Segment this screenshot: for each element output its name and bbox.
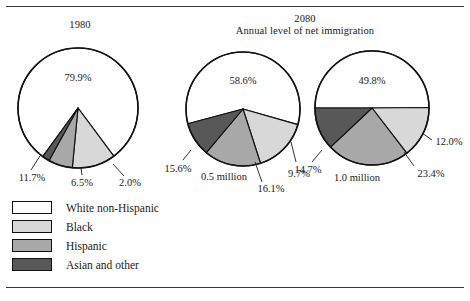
- pie-3-leader-hispanic: [404, 152, 414, 166]
- pie-3-label-asian: 12.0%: [435, 136, 462, 147]
- pie-1-label-asian: 2.0%: [119, 177, 141, 188]
- pie-3-label-hispanic: 23.4%: [417, 168, 444, 179]
- pie-2-leader-asian: [291, 142, 296, 162]
- legend-label-black: Black: [66, 221, 93, 233]
- pie-2-label-hispanic: 16.1%: [257, 183, 284, 194]
- pie-1-label-hispanic: 6.5%: [71, 177, 93, 188]
- legend-item-white-non-hispanic: White non-Hispanic: [12, 198, 159, 217]
- pie-1-label-black: 11.7%: [19, 172, 46, 183]
- pie-chart-2080-half-million: 58.6% 15.6% 16.1% 9.7% 0.5 million: [164, 52, 310, 194]
- pie-2-caption: 0.5 million: [201, 171, 248, 182]
- legend-item-asian-and-other: Asian and other: [12, 255, 159, 274]
- pie-3-label-black: 14.7%: [294, 164, 321, 175]
- legend-swatch-asian-and-other: [12, 258, 52, 271]
- pie-1-leader-black: [31, 156, 40, 170]
- legend-swatch-white-non-hispanic: [12, 201, 52, 214]
- pie-2-leader-black: [183, 150, 191, 160]
- pie-chart-2080-one-million: 49.8% 14.7% 23.4% 12.0% 1.0 million: [294, 51, 462, 183]
- pie-3-label-white: 49.8%: [358, 75, 385, 86]
- pie-2-leader-hispanic: [255, 162, 262, 182]
- pie-2-label-white: 58.6%: [229, 75, 256, 86]
- legend-label-white-non-hispanic: White non-Hispanic: [66, 202, 159, 214]
- pie-3-leader-asian: [422, 133, 432, 140]
- figure-pie-charts-immigration: 1980 2080 Annual level of net immigratio…: [0, 0, 470, 301]
- pie-3-leader-black: [312, 150, 322, 162]
- pie-3-caption: 1.0 million: [334, 172, 381, 183]
- pie-1-label-white: 79.9%: [64, 72, 91, 83]
- pie-1-leader-asian: [113, 164, 124, 176]
- legend-label-asian-and-other: Asian and other: [66, 259, 139, 271]
- legend-swatch-black: [12, 220, 52, 233]
- pie-2-label-black: 15.6%: [164, 163, 191, 174]
- pie-1-leader-hispanic: [81, 168, 82, 175]
- legend: White non-Hispanic Black Hispanic Asian …: [12, 198, 159, 274]
- legend-label-hispanic: Hispanic: [66, 240, 107, 252]
- legend-item-hispanic: Hispanic: [12, 236, 159, 255]
- legend-swatch-hispanic: [12, 239, 52, 252]
- legend-item-black: Black: [12, 217, 159, 236]
- pie-chart-1980: 79.9% 11.7% 6.5% 2.0%: [18, 48, 141, 188]
